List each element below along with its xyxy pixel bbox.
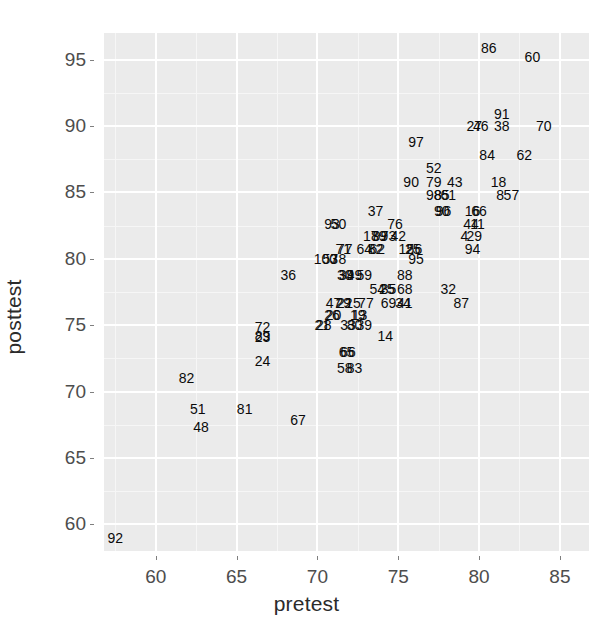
data-point-label: 43 [447, 175, 463, 189]
data-point-label: 68 [397, 282, 413, 296]
scatter-plot-figure: posttest pretest 6065707580859095 606570… [0, 0, 613, 634]
gridline-minor-vertical [439, 33, 440, 551]
data-point-label: 38 [494, 119, 510, 133]
x-tick-mark [317, 556, 318, 560]
data-point-label: 62 [517, 148, 533, 162]
data-point-label: 36 [281, 268, 297, 282]
y-tick-mark [90, 192, 94, 193]
y-axis-title: posttest [0, 0, 32, 634]
data-point-label: 84 [479, 148, 495, 162]
data-point-label: 14 [378, 329, 394, 343]
data-point-label: 94 [465, 242, 481, 256]
y-tick-mark [90, 126, 94, 127]
x-tick-mark [156, 556, 157, 560]
gridline-major-vertical [155, 33, 157, 551]
y-tick-mark [90, 325, 94, 326]
y-tick-mark [90, 259, 94, 260]
data-point-label: 69 [381, 296, 397, 310]
data-point-label: 57 [504, 188, 520, 202]
gridline-minor-horizontal [104, 292, 589, 293]
gridline-minor-vertical [115, 33, 116, 551]
data-point-label: 83 [347, 361, 363, 375]
data-point-label: 97 [408, 135, 424, 149]
data-point-label: 51 [190, 402, 206, 416]
data-point-label: 62 [369, 242, 385, 256]
data-point-label: 61 [441, 188, 457, 202]
data-point-label: 46 [473, 119, 489, 133]
data-point-label: 11 [470, 217, 485, 231]
y-tick-mark [90, 458, 94, 459]
data-point-label: 41 [397, 296, 413, 310]
gridline-major-horizontal [104, 125, 589, 127]
gridline-minor-vertical [277, 33, 278, 551]
gridline-major-vertical [236, 33, 238, 551]
x-tick-mark [237, 556, 238, 560]
gridline-major-horizontal [104, 391, 589, 393]
x-tick-label: 70 [294, 566, 340, 588]
x-tick-label: 85 [537, 566, 583, 588]
gridline-major-horizontal [104, 59, 589, 61]
gridline-minor-horizontal [104, 425, 589, 426]
data-point-label: 23 [255, 330, 271, 344]
gridline-major-horizontal [104, 523, 589, 525]
gridline-major-vertical [316, 33, 318, 551]
x-tick-mark [560, 556, 561, 560]
data-point-label: 88 [397, 268, 413, 282]
data-point-label: 90 [403, 175, 419, 189]
data-point-label: 77 [337, 242, 353, 256]
y-tick-label: 75 [40, 314, 86, 336]
y-tick-mark [90, 524, 94, 525]
gridline-minor-vertical [358, 33, 359, 551]
data-point-label: 50 [331, 217, 347, 231]
y-axis-tick-labels: 6065707580859095 [38, 0, 86, 634]
gridline-minor-vertical [519, 33, 520, 551]
data-point-label: 24 [255, 354, 271, 368]
y-tick-label: 80 [40, 248, 86, 270]
y-tick-mark [90, 60, 94, 61]
x-tick-mark [479, 556, 480, 560]
y-tick-mark [90, 392, 94, 393]
data-point-label: 39 [356, 318, 372, 332]
data-point-label: 67 [290, 413, 306, 427]
data-point-label: 66 [340, 345, 356, 359]
data-point-label: 92 [108, 531, 124, 545]
data-point-label: 96 [436, 204, 452, 218]
y-tick-label: 60 [40, 513, 86, 535]
y-tick-label: 90 [40, 115, 86, 137]
gridline-major-vertical [559, 33, 561, 551]
y-tick-label: 85 [40, 181, 86, 203]
gridline-minor-horizontal [104, 93, 589, 94]
data-point-label: 59 [356, 268, 372, 282]
plot-panel: 9282514881728923243667212810053935078472… [104, 33, 589, 551]
y-tick-label: 95 [40, 49, 86, 71]
gridline-major-horizontal [104, 457, 589, 459]
x-tick-label: 80 [456, 566, 502, 588]
data-point-label: 48 [193, 420, 209, 434]
x-tick-mark [398, 556, 399, 560]
gridline-minor-vertical [196, 33, 197, 551]
x-tick-label: 65 [214, 566, 260, 588]
data-point-label: 77 [358, 296, 374, 310]
x-tick-label: 75 [375, 566, 421, 588]
data-point-label: 60 [525, 50, 541, 64]
gridline-minor-horizontal [104, 491, 589, 492]
data-point-label: 87 [453, 296, 469, 310]
data-point-label: 95 [408, 252, 424, 266]
data-point-label: 82 [179, 371, 195, 385]
data-point-label: 86 [481, 41, 497, 55]
data-point-label: 37 [368, 204, 384, 218]
x-axis-title: pretest [0, 592, 613, 616]
y-tick-label: 70 [40, 381, 86, 403]
data-point-label: 66 [471, 204, 487, 218]
data-point-label: 81 [237, 402, 253, 416]
y-tick-label: 65 [40, 447, 86, 469]
data-point-label: 70 [536, 119, 552, 133]
x-axis-tick-labels: 606570758085 [0, 556, 613, 586]
gridline-major-vertical [478, 33, 480, 551]
x-tick-label: 60 [133, 566, 179, 588]
